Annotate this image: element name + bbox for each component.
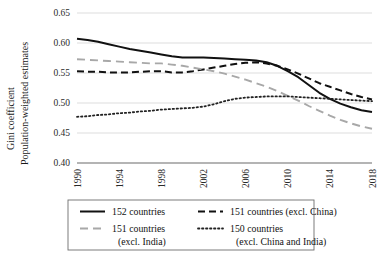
- gini-coefficient-line-chart: 0.650.600.550.500.450.40 199019941998200…: [0, 0, 381, 259]
- x-tick-2018: 2018: [368, 169, 378, 188]
- chart-container: 0.650.600.550.500.450.40 199019941998200…: [0, 0, 381, 259]
- legend-label2-151-countries-excl-india: (excl. India): [118, 236, 166, 248]
- x-tick-2002: 2002: [199, 169, 209, 188]
- series-line-151-countries-excl-india: [77, 59, 372, 129]
- x-axis-tick-labels: 19901994199820022006201020142018: [73, 169, 378, 188]
- x-tick-1998: 1998: [157, 169, 167, 188]
- y-tick-0.65: 0.65: [53, 8, 70, 18]
- chart-legend: 152 countries151 countries (excl. China)…: [68, 200, 337, 250]
- legend-label-151-countries-excl-china: 151 countries (excl. China): [230, 206, 337, 218]
- legend-label-152-countries: 152 countries: [112, 206, 165, 217]
- y-axis-label: Gini coefficient Population-weighted est…: [5, 42, 30, 165]
- legend-items: 152 countries151 countries (excl. China)…: [80, 206, 337, 248]
- legend-label-151-countries-excl-india: 151 countries: [112, 223, 165, 234]
- x-tick-2010: 2010: [283, 169, 293, 188]
- x-tick-1990: 1990: [73, 169, 83, 188]
- legend-label-150-countries-excl-china-and-india: 150 countries: [230, 223, 283, 234]
- series-lines: [77, 39, 372, 129]
- y-tick-0.50: 0.50: [53, 98, 70, 108]
- x-tick-2006: 2006: [241, 169, 251, 188]
- x-tick-1994: 1994: [115, 169, 125, 188]
- y-axis-label-line1: Gini coefficient: [5, 87, 16, 150]
- y-tick-0.55: 0.55: [53, 68, 70, 78]
- y-tick-0.45: 0.45: [53, 128, 70, 138]
- y-axis-label-line2: Population-weighted estimates: [19, 42, 30, 165]
- x-tick-2014: 2014: [325, 169, 335, 188]
- legend-label2-150-countries-excl-china-and-india: (excl. China and India): [236, 236, 326, 248]
- series-line-151-countries-excl-china: [77, 62, 372, 99]
- grid-lines: [77, 13, 372, 163]
- series-line-150-countries-excl-china-and-india: [77, 96, 372, 116]
- y-axis-tick-labels: 0.650.600.550.500.450.40: [53, 8, 70, 168]
- y-tick-0.60: 0.60: [53, 38, 70, 48]
- y-tick-0.40: 0.40: [53, 158, 70, 168]
